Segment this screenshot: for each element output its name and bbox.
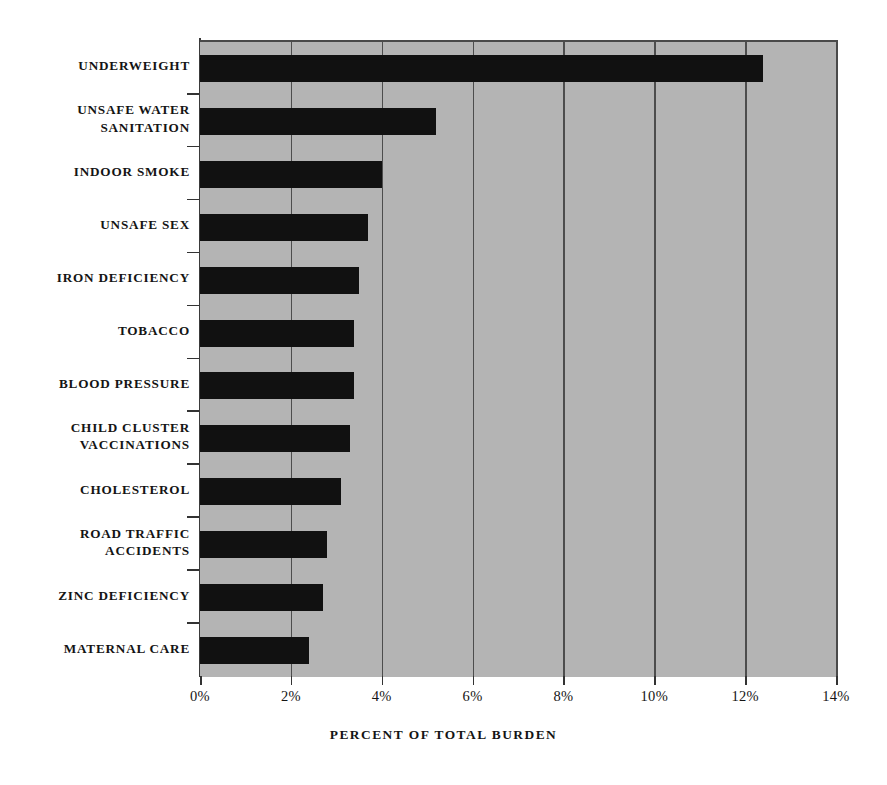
y-tick-mark <box>187 252 199 254</box>
gridline <box>745 42 746 677</box>
x-tick-label: 8% <box>528 688 598 705</box>
x-tick-label: 2% <box>256 688 326 705</box>
gridline <box>291 42 292 677</box>
x-tick-label: 4% <box>347 688 417 705</box>
plot-area <box>200 40 838 677</box>
category-label-line: ZINC DEFICIENCY <box>0 587 190 605</box>
category-label: BLOOD PRESSURE <box>0 375 190 393</box>
x-tick-mark <box>473 676 475 685</box>
category-label-line: SANITATION <box>0 119 190 136</box>
bar <box>200 320 354 347</box>
x-tick-mark <box>654 676 656 685</box>
category-label-line: VACCINATIONS <box>0 436 190 453</box>
category-label-line: ROAD TRAFFIC <box>0 525 190 542</box>
bar <box>200 425 350 452</box>
bar <box>200 478 341 505</box>
gridline <box>382 42 383 677</box>
category-label-line: INDOOR SMOKE <box>0 163 190 181</box>
x-tick-mark <box>563 676 565 685</box>
x-tick-label: 14% <box>801 688 871 705</box>
y-tick-mark <box>187 305 199 307</box>
gridline <box>563 42 564 677</box>
y-tick-mark <box>187 199 199 201</box>
bar <box>200 267 359 294</box>
gridline <box>654 42 655 677</box>
y-tick-mark <box>187 569 199 571</box>
category-label-line: BLOOD PRESSURE <box>0 375 190 393</box>
x-tick-label: 0% <box>165 688 235 705</box>
x-tick-label: 10% <box>619 688 689 705</box>
y-tick-mark <box>187 516 199 518</box>
category-label: MATERNAL CARE <box>0 640 190 658</box>
y-tick-mark <box>187 93 199 95</box>
gridline <box>473 42 474 677</box>
x-tick-label: 6% <box>438 688 508 705</box>
category-label-line: UNSAFE WATER <box>0 101 190 118</box>
category-label: UNDERWEIGHT <box>0 57 190 75</box>
category-axis-labels: UNDERWEIGHTUNSAFE WATERSANITATIONINDOOR … <box>0 40 190 675</box>
y-tick-mark <box>187 410 199 412</box>
category-label: INDOOR SMOKE <box>0 163 190 181</box>
bar <box>200 531 327 558</box>
x-axis-title: PERCENT OF TOTAL BURDEN <box>0 727 887 743</box>
category-label-line: IRON DEFICIENCY <box>0 269 190 287</box>
category-label: UNSAFE WATERSANITATION <box>0 101 190 137</box>
bar <box>200 108 436 135</box>
category-label-line: UNSAFE SEX <box>0 216 190 234</box>
x-tick-mark <box>200 676 202 685</box>
bar <box>200 55 763 82</box>
y-tick-mark <box>187 622 199 624</box>
bar <box>200 161 382 188</box>
x-tick-mark <box>745 676 747 685</box>
bar <box>200 584 323 611</box>
category-label-line: UNDERWEIGHT <box>0 57 190 75</box>
category-label-line: CHOLESTEROL <box>0 481 190 499</box>
category-label: IRON DEFICIENCY <box>0 269 190 287</box>
category-label: ROAD TRAFFICACCIDENTS <box>0 525 190 561</box>
bar <box>200 214 368 241</box>
category-label-line: CHILD CLUSTER <box>0 419 190 436</box>
x-tick-mark <box>382 676 384 685</box>
x-tick-label: 12% <box>710 688 780 705</box>
bar <box>200 637 309 664</box>
bar <box>200 372 354 399</box>
category-label: TOBACCO <box>0 322 190 340</box>
y-tick-mark <box>187 463 199 465</box>
category-label-line: ACCIDENTS <box>0 542 190 559</box>
x-tick-mark <box>836 676 838 685</box>
x-tick-mark <box>291 676 293 685</box>
category-label: UNSAFE SEX <box>0 216 190 234</box>
category-label-line: TOBACCO <box>0 322 190 340</box>
category-label-line: MATERNAL CARE <box>0 640 190 658</box>
category-label: CHOLESTEROL <box>0 481 190 499</box>
category-label: CHILD CLUSTERVACCINATIONS <box>0 419 190 455</box>
category-label: ZINC DEFICIENCY <box>0 587 190 605</box>
y-tick-mark <box>187 358 199 360</box>
y-tick-mark <box>187 146 199 148</box>
bar-chart-figure: UNDERWEIGHTUNSAFE WATERSANITATIONINDOOR … <box>0 0 887 785</box>
